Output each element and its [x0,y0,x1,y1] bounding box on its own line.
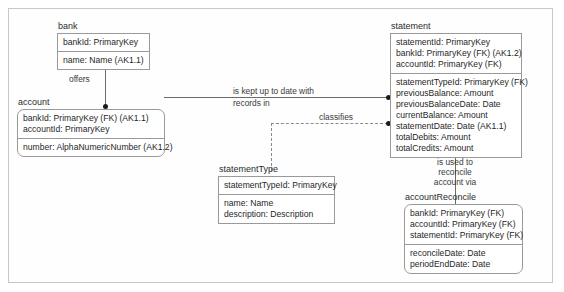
entity-account-title: account [17,97,165,108]
entity-statementtype-body: statementTypeId: PrimaryKey name: Name d… [218,176,335,224]
attribute: accountId: PrimaryKey (FK) [396,59,516,70]
entity-bank-body: bankId: PrimaryKey name: Name (AK1.1) [57,33,150,70]
entity-statementtype-title: statementType [218,164,335,175]
entity-statement[interactable]: statement statementId: PrimaryKey bankId… [390,21,522,158]
entity-statementtype-attributes: name: Name description: Description [219,194,334,223]
entity-statement-key-attributes: statementId: PrimaryKey bankId: PrimaryK… [391,34,521,73]
entity-accountreconcile-body: bankId: PrimaryKey (FK) accountId: Prima… [404,204,523,274]
entity-bank-title: bank [57,21,150,32]
attribute: previousBalanceDate: Date [396,99,516,110]
entity-accountreconcile-title: accountReconcile [404,192,523,203]
relationship-label-offers: offers [69,74,90,84]
relationship-line-classifies-horizontal [271,123,388,124]
attribute: statementId: PrimaryKey [396,37,516,48]
relationship-label-reconcile-line3: account via [423,177,487,187]
entity-accountreconcile-attributes: reconcileDate: Date periodEndDate: Date [405,244,522,273]
attribute: accountId: PrimaryKey [23,124,159,135]
relationship-label-reconcile-line2: reconcile [423,167,487,177]
attribute: periodEndDate: Date [410,259,517,270]
attribute: statementId: PrimaryKey (FK) [410,230,517,241]
attribute: statementTypeId: PrimaryKey (FK) [396,77,516,88]
attribute: bankId: PrimaryKey (FK) (AK1.1) [23,113,159,124]
attribute: statementDate: Date (AK1.1) [396,121,516,132]
attribute: description: Description [224,209,329,220]
entity-bank-key-attributes: bankId: PrimaryKey [58,34,149,51]
attribute: accountId: PrimaryKey (FK) [410,219,517,230]
attribute: totalCredits: Amount [396,143,516,154]
relationship-label-reconcile-line1: is used to [423,157,487,167]
attribute: bankId: PrimaryKey (FK) [410,208,517,219]
entity-bank-attributes: name: Name (AK1.1) [58,51,149,69]
attribute: totalDebits: Amount [396,132,516,143]
entity-statementtype[interactable]: statementType statementTypeId: PrimaryKe… [218,164,335,224]
entity-statement-title: statement [390,21,522,32]
relationship-line-account-statement [164,97,389,98]
attribute: currentBalance: Amount [396,110,516,121]
attribute: reconcileDate: Date [410,248,517,259]
entity-account[interactable]: account bankId: PrimaryKey (FK) (AK1.1) … [17,97,165,157]
entity-accountreconcile-key-attributes: bankId: PrimaryKey (FK) accountId: Prima… [405,205,522,244]
attribute: number: AlphaNumericNumber (AK1.2) [23,142,159,153]
entity-account-body: bankId: PrimaryKey (FK) (AK1.1) accountI… [17,109,165,157]
entity-bank[interactable]: bank bankId: PrimaryKey name: Name (AK1.… [57,21,150,70]
attribute: name: Name (AK1.1) [63,55,144,66]
attribute: statementTypeId: PrimaryKey [224,180,329,191]
attribute: bankId: PrimaryKey (FK) (AK1.2) [396,48,516,59]
relationship-label-kept-up-to-date-line1: is kept up to date with [233,86,314,96]
relationship-label-kept-up-to-date-line2: records in [233,98,270,108]
relationship-label-classifies: classifies [319,112,353,122]
entity-account-key-attributes: bankId: PrimaryKey (FK) (AK1.1) accountI… [18,110,164,138]
attribute: bankId: PrimaryKey [63,37,144,48]
entity-account-attributes: number: AlphaNumericNumber (AK1.2) [18,138,164,156]
entity-statementtype-key-attributes: statementTypeId: PrimaryKey [219,177,334,194]
entity-accountreconcile[interactable]: accountReconcile bankId: PrimaryKey (FK)… [404,192,523,274]
entity-statement-body: statementId: PrimaryKey bankId: PrimaryK… [390,33,522,158]
diagram-frame: offers is kept up to date with records i… [8,8,553,283]
attribute: previousBalance: Amount [396,88,516,99]
er-diagram-canvas: offers is kept up to date with records i… [0,0,564,292]
entity-statement-attributes: statementTypeId: PrimaryKey (FK) previou… [391,73,521,157]
attribute: name: Name [224,198,329,209]
